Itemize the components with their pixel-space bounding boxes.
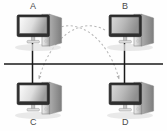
computer-node-c[interactable] [15,82,62,119]
node-label-a: A [30,2,36,11]
node-label-c: C [30,118,37,127]
network-diagram-canvas: A B C D [0,0,167,131]
computer-node-a[interactable] [15,14,62,51]
computer-node-d[interactable] [107,82,154,119]
node-label-d: D [122,118,129,127]
diagram-svg [0,0,167,131]
computer-node-b[interactable] [107,14,154,51]
node-label-b: B [122,2,128,11]
